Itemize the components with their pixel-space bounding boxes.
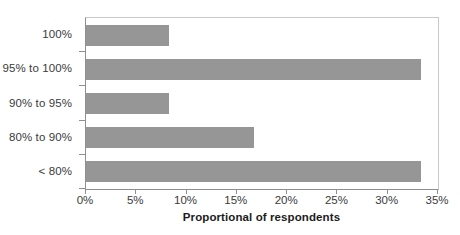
x-axis-tick-label: 0% (77, 194, 94, 206)
bar-row (86, 18, 438, 52)
bar-80-to-90 (86, 127, 254, 148)
x-axis-tick-label: 10% (174, 194, 197, 206)
category-label: 100% (0, 17, 78, 51)
x-axis-tick-label: 15% (224, 194, 247, 206)
x-axis-title: Proportional of respondents (85, 211, 438, 223)
bar-100 (86, 25, 169, 46)
bar-under-80 (86, 161, 421, 182)
bar-series (86, 18, 438, 189)
category-axis-labels: 100% 95% to 100% 90% to 95% 80% to 90% <… (0, 17, 78, 188)
bar-chart: 100% 95% to 100% 90% to 95% 80% to 90% <… (0, 0, 460, 235)
x-axis-tick-label: 5% (127, 194, 144, 206)
x-axis-tick-label: 30% (375, 194, 398, 206)
category-label: 95% to 100% (0, 51, 78, 85)
category-label: < 80% (0, 154, 78, 188)
x-axis-tick-label: 35% (425, 194, 448, 206)
plot-area (85, 17, 439, 190)
x-axis-tick-labels: 0%5%10%15%20%25%30%35% (0, 194, 460, 208)
category-label: 90% to 95% (0, 85, 78, 119)
bar-row (86, 52, 438, 86)
category-label: 80% to 90% (0, 120, 78, 154)
x-axis-tick-label: 25% (325, 194, 348, 206)
bar-row (86, 155, 438, 189)
bar-row (86, 121, 438, 155)
bar-row (86, 86, 438, 120)
bar-95-to-100 (86, 59, 421, 80)
bar-90-to-95 (86, 93, 169, 114)
x-axis-tick-label: 20% (275, 194, 298, 206)
